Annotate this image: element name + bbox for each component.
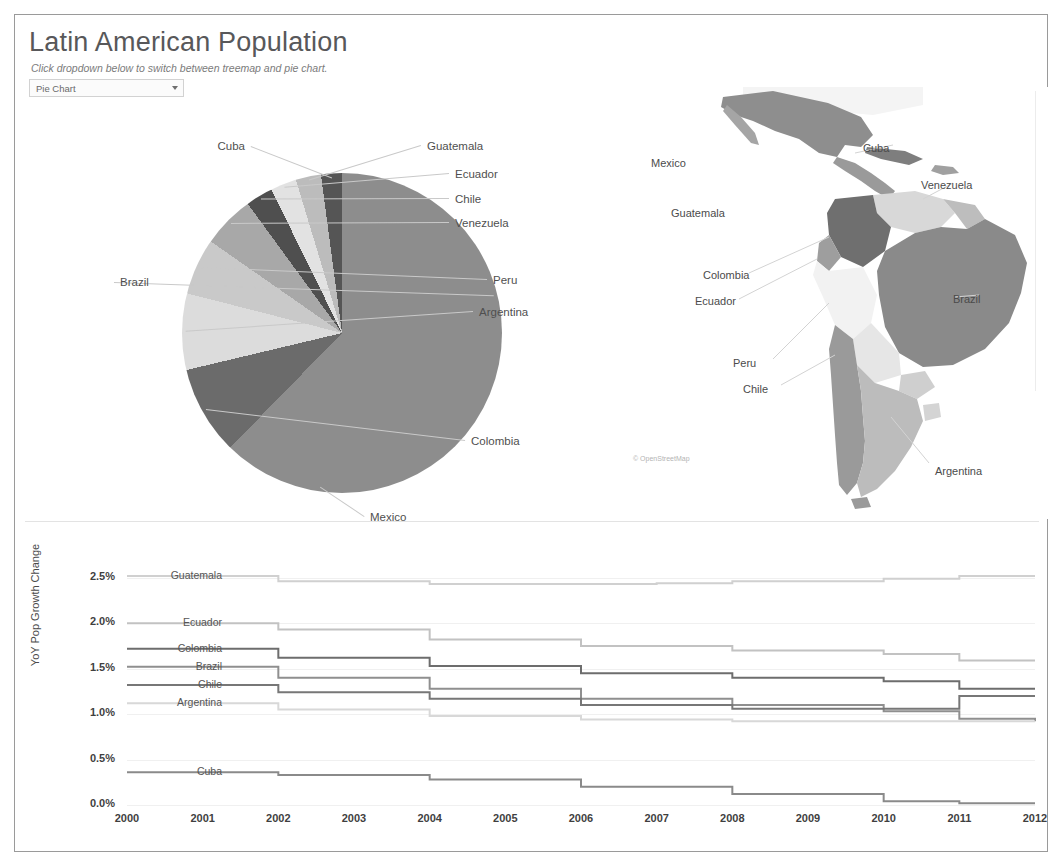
pie-label-guatemala: Guatemala — [427, 140, 483, 152]
chart-type-value: Pie Chart — [36, 83, 76, 94]
series-label-colombia: Colombia — [178, 642, 222, 654]
pie-label-peru: Peru — [493, 274, 517, 286]
map-label-colombia: Colombia — [703, 269, 749, 281]
map-pane-edge — [1035, 91, 1036, 391]
series-line-brazil[interactable] — [127, 667, 1035, 722]
map-label-brazil: Brazil — [953, 293, 981, 305]
line-chart-pane: YoY Pop Growth Change 0.0%0.5%1.0%1.5%2.… — [15, 525, 1048, 852]
series-label-argentina: Argentina — [177, 696, 222, 708]
pane-divider — [25, 521, 1039, 522]
map-label-mexico: Mexico — [651, 157, 686, 169]
map-label-cuba: Cuba — [863, 142, 889, 154]
map-attribution: © OpenStreetMap — [633, 455, 690, 462]
series-label-chile: Chile — [198, 678, 222, 690]
page-subtitle: Click dropdown below to switch between t… — [31, 62, 328, 74]
map-label-argentina: Argentina — [935, 465, 982, 477]
page-title: Latin American Population — [29, 27, 348, 58]
chart-type-dropdown[interactable]: Pie Chart — [29, 79, 184, 97]
pie-label-venezuela: Venezuela — [455, 217, 509, 229]
series-label-cuba: Cuba — [197, 765, 222, 777]
map-pane[interactable]: MexicoCubaVenezuelaGuatemalaColombiaEcua… — [623, 87, 1048, 519]
dashboard-frame: Latin American Population Click dropdown… — [14, 14, 1048, 852]
chevron-down-icon — [172, 86, 178, 90]
pie-chart-pane: CubaGuatemalaEcuadorChileVenezuelaPeruAr… — [15, 107, 623, 519]
map-label-peru: Peru — [733, 357, 756, 369]
pie-label-ecuador: Ecuador — [455, 168, 498, 180]
series-label-brazil: Brazil — [196, 660, 222, 672]
series-label-ecuador: Ecuador — [183, 616, 222, 628]
pie-label-argentina: Argentina — [479, 306, 528, 318]
population-pie-chart[interactable] — [182, 173, 502, 493]
map-label-venezuela: Venezuela — [921, 179, 972, 191]
pie-label-chile: Chile — [455, 193, 481, 205]
pie-leader-line — [251, 146, 332, 178]
series-line-cuba[interactable] — [127, 772, 1035, 803]
map-label-guatemala: Guatemala — [671, 207, 725, 219]
pie-label-brazil: Brazil — [120, 276, 149, 288]
pie-label-cuba: Cuba — [15, 140, 245, 152]
map-label-ecuador: Ecuador — [695, 295, 736, 307]
series-label-guatemala: Guatemala — [171, 569, 222, 581]
series-line-ecuador[interactable] — [127, 623, 1035, 660]
map-label-chile: Chile — [743, 383, 768, 395]
pie-label-colombia: Colombia — [471, 435, 520, 447]
series-line-guatemala[interactable] — [127, 576, 1035, 584]
